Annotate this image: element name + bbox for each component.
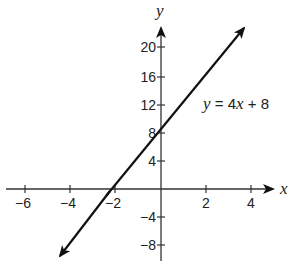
- x-tick-labels: −6 −4 −2 2 4: [15, 195, 255, 211]
- y-tick-label: 12: [140, 97, 156, 113]
- y-tick-label: 4: [148, 153, 156, 169]
- x-axis-label: x: [279, 179, 288, 198]
- y-tick-label: −8: [140, 237, 156, 253]
- y-tick-label: 16: [140, 69, 156, 85]
- equation-plus-8: + 8: [244, 95, 269, 112]
- coordinate-plane: −6 −4 −2 2 4 20 16 12 8 4 −4 −8 x y y = …: [0, 0, 294, 261]
- equation-equals-4: = 4: [211, 95, 236, 112]
- y-tick-label: −4: [140, 209, 156, 225]
- line-y-equals-4x-plus-8: [106, 28, 244, 196]
- x-tick-label: 4: [247, 195, 255, 211]
- x-tick-label: −6: [15, 195, 31, 211]
- y-axis-label: y: [154, 1, 164, 20]
- x-tick-label: −2: [105, 195, 121, 211]
- x-tick-label: −4: [60, 195, 76, 211]
- y-tick-label: 20: [140, 39, 156, 55]
- equation-label: y = 4x + 8: [201, 94, 269, 113]
- equation-y: y: [201, 94, 211, 113]
- x-tick-label: 2: [202, 195, 210, 211]
